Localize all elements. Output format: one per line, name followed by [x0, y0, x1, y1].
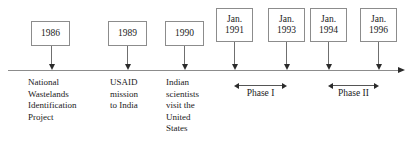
tick-arrow-icon-m1996	[376, 64, 382, 70]
date-box-m1991: Jan.1991	[216, 8, 253, 42]
date-box-m1993: Jan.1993	[268, 8, 305, 42]
phase-label-phase-1: Phase I	[234, 88, 287, 99]
date-box-line: 1991	[225, 25, 244, 36]
event-label-m1986: National Wastelands Identification Proje…	[28, 77, 76, 123]
timeline-figure: 1986National Wastelands Identification P…	[0, 0, 415, 148]
date-box-m1989: 1989	[108, 21, 147, 46]
connector-stem-m1986	[51, 46, 52, 65]
connector-stem-m1994	[328, 42, 329, 65]
date-box-line: 1990	[175, 28, 194, 39]
date-box-line: Jan.	[321, 14, 336, 25]
event-label-m1990: Indian scientists visit the United State…	[166, 77, 199, 135]
timeline-axis-arrowhead-icon	[398, 67, 405, 73]
connector-stem-m1990	[184, 46, 185, 65]
tick-arrow-icon-m1986	[49, 64, 55, 70]
date-box-line: 1989	[118, 28, 137, 39]
date-box-m1994: Jan.1994	[310, 8, 347, 42]
date-box-line: Jan.	[371, 14, 386, 25]
date-box-m1986: 1986	[31, 21, 70, 46]
date-box-m1990: 1990	[165, 21, 204, 46]
tick-arrow-icon-m1993	[284, 64, 290, 70]
connector-stem-m1991	[234, 42, 235, 65]
phase-bar-phase-1	[238, 85, 283, 86]
tick-arrow-icon-m1991	[232, 64, 238, 70]
tick-arrow-icon-m1994	[326, 64, 332, 70]
connector-stem-m1996	[378, 42, 379, 65]
phase-bar-phase-2	[332, 85, 375, 86]
tick-arrow-icon-m1990	[182, 64, 188, 70]
connector-stem-m1993	[286, 42, 287, 65]
phase-label-phase-2: Phase II	[328, 88, 379, 99]
date-box-line: 1986	[41, 28, 60, 39]
timeline-axis-line	[8, 70, 398, 71]
connector-stem-m1989	[127, 46, 128, 65]
event-label-m1989: USAID mission to India	[110, 77, 138, 112]
date-box-line: Jan.	[279, 14, 294, 25]
date-box-line: 1993	[277, 25, 296, 36]
date-box-line: 1994	[319, 25, 338, 36]
date-box-line: Jan.	[227, 14, 242, 25]
date-box-line: 1996	[369, 25, 388, 36]
date-box-m1996: Jan.1996	[360, 8, 397, 42]
tick-arrow-icon-m1989	[125, 64, 131, 70]
